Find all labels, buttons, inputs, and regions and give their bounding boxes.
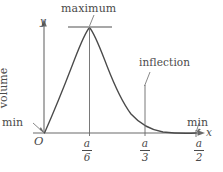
x-axis-label: x — [206, 127, 212, 138]
fraction-denominator: 3 — [134, 152, 156, 163]
x-tick-label-a-over-2: a 2 — [188, 138, 210, 163]
inflection-annotation-label: inflection — [139, 57, 190, 68]
fraction-denominator: 2 — [188, 152, 210, 163]
fraction-numerator: a — [134, 138, 156, 149]
y-axis-label: y — [40, 16, 46, 27]
min-left-annotation-label: min — [2, 117, 23, 128]
y-axis — [41, 19, 47, 133]
maximum-annotation-label: maximum — [61, 3, 116, 14]
y-axis-title: volume — [0, 60, 9, 116]
x-tick-label-a-over-6: a 6 — [76, 138, 98, 163]
x-tick-label-a-over-3: a 3 — [134, 138, 156, 163]
fraction-numerator: a — [188, 138, 210, 149]
fraction-denominator: 6 — [76, 152, 98, 163]
leader-line-maximum — [90, 15, 95, 26]
leader-line-inflection — [145, 72, 151, 86]
min-right-annotation-label: min — [187, 117, 208, 128]
volume-curve-figure: maximum inflection min min O y x volume … — [0, 0, 223, 172]
origin-label: O — [34, 136, 43, 148]
fraction-numerator: a — [76, 138, 98, 149]
volume-curve — [45, 28, 197, 134]
